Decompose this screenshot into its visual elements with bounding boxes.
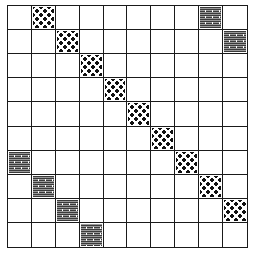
empty-cell bbox=[104, 54, 128, 78]
dotted-pattern bbox=[152, 128, 173, 149]
dotted-pattern bbox=[128, 103, 149, 124]
empty-cell bbox=[175, 223, 199, 247]
striped-pattern bbox=[224, 31, 246, 52]
empty-cell bbox=[80, 127, 104, 151]
empty-cell bbox=[151, 102, 175, 126]
empty-cell bbox=[32, 30, 56, 54]
empty-cell bbox=[199, 54, 223, 78]
empty-cell bbox=[151, 30, 175, 54]
empty-cell bbox=[56, 151, 80, 175]
empty-cell bbox=[151, 54, 175, 78]
empty-cell bbox=[32, 223, 56, 247]
empty-cell bbox=[8, 102, 32, 126]
empty-cell bbox=[175, 127, 199, 151]
empty-cell bbox=[175, 6, 199, 30]
empty-cell bbox=[80, 6, 104, 30]
empty-cell bbox=[175, 30, 199, 54]
empty-cell bbox=[8, 199, 32, 223]
empty-cell bbox=[199, 30, 223, 54]
empty-cell bbox=[104, 223, 128, 247]
empty-cell bbox=[104, 199, 128, 223]
dotted-cell bbox=[32, 6, 56, 30]
empty-cell bbox=[32, 78, 56, 102]
empty-cell bbox=[56, 78, 80, 102]
dotted-pattern bbox=[224, 200, 246, 221]
dotted-cell bbox=[151, 127, 175, 151]
empty-cell bbox=[32, 127, 56, 151]
striped-pattern bbox=[33, 176, 54, 197]
empty-cell bbox=[56, 54, 80, 78]
empty-cell bbox=[199, 151, 223, 175]
empty-cell bbox=[151, 175, 175, 199]
empty-cell bbox=[56, 6, 80, 30]
striped-cell bbox=[80, 223, 104, 247]
dotted-cell bbox=[80, 54, 104, 78]
empty-cell bbox=[151, 6, 175, 30]
empty-cell bbox=[104, 127, 128, 151]
empty-cell bbox=[127, 6, 151, 30]
dotted-cell bbox=[199, 175, 223, 199]
striped-cell bbox=[8, 151, 32, 175]
empty-cell bbox=[151, 78, 175, 102]
dotted-pattern bbox=[81, 55, 102, 76]
striped-pattern bbox=[9, 152, 30, 173]
empty-cell bbox=[151, 223, 175, 247]
dotted-pattern bbox=[57, 31, 78, 52]
empty-cell bbox=[223, 175, 247, 199]
empty-cell bbox=[80, 102, 104, 126]
dotted-cell bbox=[56, 30, 80, 54]
empty-cell bbox=[56, 223, 80, 247]
empty-cell bbox=[80, 199, 104, 223]
empty-cell bbox=[8, 78, 32, 102]
empty-cell bbox=[80, 78, 104, 102]
empty-cell bbox=[32, 54, 56, 78]
empty-cell bbox=[56, 102, 80, 126]
dotted-pattern bbox=[200, 176, 221, 197]
empty-cell bbox=[32, 199, 56, 223]
pattern-grid bbox=[7, 5, 248, 248]
empty-cell bbox=[104, 175, 128, 199]
empty-cell bbox=[56, 175, 80, 199]
empty-cell bbox=[223, 127, 247, 151]
empty-cell bbox=[127, 223, 151, 247]
empty-cell bbox=[127, 175, 151, 199]
striped-cell bbox=[223, 30, 247, 54]
empty-cell bbox=[199, 223, 223, 247]
empty-cell bbox=[104, 102, 128, 126]
dotted-cell bbox=[104, 78, 128, 102]
empty-cell bbox=[175, 54, 199, 78]
empty-cell bbox=[223, 151, 247, 175]
empty-cell bbox=[80, 30, 104, 54]
dotted-pattern bbox=[176, 152, 197, 173]
empty-cell bbox=[199, 102, 223, 126]
empty-cell bbox=[127, 78, 151, 102]
empty-cell bbox=[80, 175, 104, 199]
striped-cell bbox=[199, 6, 223, 30]
empty-cell bbox=[127, 54, 151, 78]
empty-cell bbox=[223, 54, 247, 78]
empty-cell bbox=[199, 199, 223, 223]
empty-cell bbox=[8, 30, 32, 54]
striped-pattern bbox=[57, 200, 78, 221]
empty-cell bbox=[175, 78, 199, 102]
striped-cell bbox=[56, 199, 80, 223]
empty-cell bbox=[8, 223, 32, 247]
empty-cell bbox=[32, 102, 56, 126]
empty-cell bbox=[151, 151, 175, 175]
empty-cell bbox=[127, 30, 151, 54]
dotted-cell bbox=[175, 151, 199, 175]
empty-cell bbox=[56, 127, 80, 151]
empty-cell bbox=[175, 199, 199, 223]
empty-cell bbox=[199, 127, 223, 151]
empty-cell bbox=[80, 151, 104, 175]
empty-cell bbox=[104, 6, 128, 30]
striped-pattern bbox=[81, 224, 102, 246]
dotted-pattern bbox=[105, 79, 126, 100]
striped-cell bbox=[32, 175, 56, 199]
empty-cell bbox=[8, 175, 32, 199]
empty-cell bbox=[8, 54, 32, 78]
empty-cell bbox=[223, 102, 247, 126]
empty-cell bbox=[104, 30, 128, 54]
empty-cell bbox=[151, 199, 175, 223]
striped-pattern bbox=[200, 7, 221, 28]
